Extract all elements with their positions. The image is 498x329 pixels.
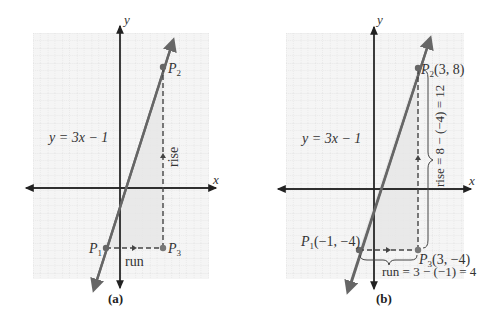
y-axis-label-b: y <box>375 12 383 27</box>
panel-a: y x y = 3x − 1 P1 P2 P3 run rise (a) <box>26 0 219 306</box>
caption-a: (a) <box>108 291 123 306</box>
y-axis-label-a: y <box>122 12 130 27</box>
point-p1-a <box>103 245 109 251</box>
equation-label-b: y = 3x − 1 <box>300 131 361 146</box>
figure-canvas: y x y = 3x − 1 P1 P2 P3 run rise (a) <box>0 0 498 329</box>
caption-b: (b) <box>376 291 392 306</box>
p2-label-b: P2(3, 8) <box>420 62 465 79</box>
panel-b: y x y = 3x − 1 P1(−1, −4) P2(3, 8) P3(3,… <box>278 12 477 306</box>
point-p2-a <box>160 64 166 70</box>
point-p3-a <box>160 245 166 251</box>
run-label-a: run <box>125 254 144 269</box>
x-axis-label-b: x <box>468 173 475 188</box>
p1-label-b: P1(−1, −4) <box>300 234 361 251</box>
rise-label-a: rise <box>166 147 181 167</box>
run-label-b: run = 3 − (−1) = 4 <box>382 264 477 279</box>
rise-label-b: rise = 8 − (−4) = 12 <box>432 85 447 187</box>
equation-label-a: y = 3x − 1 <box>47 130 108 145</box>
x-axis-label-a: x <box>212 172 219 187</box>
